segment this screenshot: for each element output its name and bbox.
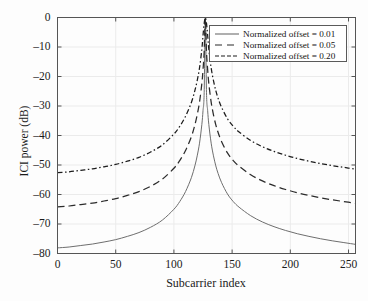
legend-label: Normalized offset = 0.05 bbox=[240, 40, 335, 50]
y-tick-label: –80 bbox=[0, 248, 51, 260]
x-tick-label: 250 bbox=[340, 259, 357, 271]
y-tick-label: –70 bbox=[0, 218, 51, 230]
legend-line-sample-solid bbox=[214, 29, 240, 39]
y-tick-label: 0 bbox=[0, 12, 51, 24]
x-tick-label: 150 bbox=[223, 259, 240, 271]
y-tick-label: –10 bbox=[0, 41, 51, 53]
chart-figure: 0–10–20–30–40–50–60–70–80050100150200250… bbox=[0, 0, 368, 301]
y-axis-label: ICI power (dB) bbox=[18, 71, 30, 211]
legend-line-sample-dashdot bbox=[214, 51, 240, 61]
legend-item: Normalized offset = 0.05 bbox=[214, 39, 346, 50]
x-tick-label: 200 bbox=[282, 259, 299, 271]
x-tick-label: 0 bbox=[55, 259, 61, 271]
legend-label: Normalized offset = 0.01 bbox=[240, 29, 335, 39]
x-axis-label: Subcarrier index bbox=[57, 276, 355, 291]
legend-label: Normalized offset = 0.20 bbox=[240, 51, 335, 61]
x-tick-label: 50 bbox=[110, 259, 122, 271]
legend-line-sample-dashed bbox=[214, 40, 240, 50]
chart-legend: Normalized offset = 0.01 Normalized offs… bbox=[209, 25, 347, 62]
legend-item: Normalized offset = 0.20 bbox=[214, 50, 346, 61]
x-tick-label: 100 bbox=[165, 259, 182, 271]
legend-item: Normalized offset = 0.01 bbox=[214, 28, 346, 39]
